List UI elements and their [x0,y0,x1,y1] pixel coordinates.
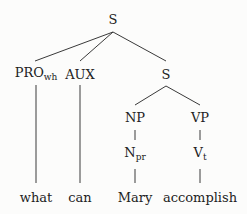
word-can: can [68,191,91,204]
word-what: what [20,191,52,204]
node-vt-subscript: t [203,152,207,162]
edge-s2-vp [166,86,200,105]
node-npr-subscript: pr [136,152,146,162]
syntax-tree-diagram: S PROwh AUX S NP VP Npr Vt what can Mary… [0,0,247,214]
edge-s-aux [80,32,113,61]
node-s-embedded: S [162,68,171,81]
node-n-pr: Npr [124,146,145,162]
word-accomplish: accomplish [163,191,237,204]
tree-edges [0,0,247,214]
edge-s-pro [35,32,113,61]
node-v-t: Vt [193,146,206,162]
edge-s-s2 [113,32,166,61]
node-np: NP [125,111,145,124]
node-s-root: S [109,13,118,26]
node-npr-label: N [124,145,135,160]
node-pro-subscript: wh [44,72,58,82]
node-vt-label: V [193,145,202,160]
node-aux: AUX [65,68,95,81]
node-vp: VP [191,111,209,124]
word-mary: Mary [118,191,153,204]
edge-s2-np [135,86,166,105]
node-pro-label: PRO [15,65,44,80]
node-pro-wh: PROwh [15,66,58,82]
